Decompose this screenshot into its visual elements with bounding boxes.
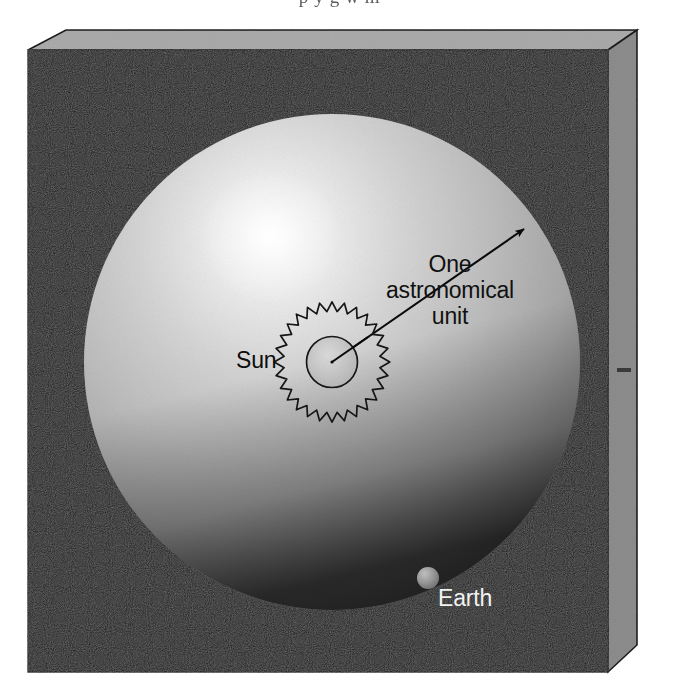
figure-canvas — [0, 0, 679, 700]
earth-label: Earth — [438, 586, 492, 612]
earth-sphere — [417, 567, 439, 589]
sun-label: Sun — [236, 348, 276, 374]
box-top-face — [28, 30, 637, 50]
box-right-face — [608, 30, 637, 672]
box-side-notch — [617, 368, 631, 372]
au-label-line-1: One — [372, 252, 528, 278]
sun-centre-point — [330, 360, 333, 363]
astronomical-unit-figure: One astronomical unit Sun Earth — [0, 0, 679, 700]
au-label-line-3: unit — [372, 304, 528, 330]
orbit-sphere-highlight — [198, 170, 342, 302]
au-label-line-2: astronomical — [372, 278, 528, 304]
one-astronomical-unit-label: One astronomical unit — [372, 252, 528, 329]
